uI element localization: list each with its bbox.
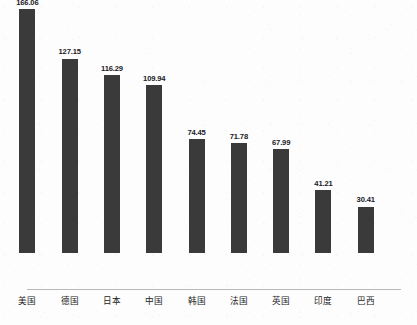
bar-rect[interactable] [358, 207, 374, 254]
bar-group-3[interactable]: 109.94 [133, 0, 175, 253]
category-label-2: 日本 [91, 297, 133, 306]
bar-value-label: 166.06 [16, 0, 38, 7]
bar-rect[interactable] [189, 139, 205, 253]
bar-rect[interactable] [273, 149, 289, 253]
bar-group-6[interactable]: 67.99 [260, 0, 302, 253]
category-label-3: 中国 [133, 297, 175, 306]
bar-value-label: 74.45 [187, 129, 205, 137]
bar-group-1[interactable]: 127.15 [49, 0, 91, 253]
category-label-7: 印度 [302, 297, 344, 306]
bar-value-label: 127.15 [58, 48, 80, 56]
category-label-5: 法国 [218, 297, 260, 306]
bar-value-label: 116.29 [101, 65, 123, 73]
category-label-1: 德国 [49, 297, 91, 306]
bar-group-7[interactable]: 41.21 [302, 0, 344, 253]
bar-value-label: 109.94 [143, 75, 165, 83]
bar-rect[interactable] [104, 75, 120, 253]
plot-area: 166.06 127.15 116.29 109.94 74.45 71.78 … [0, 0, 417, 289]
category-axis: 美国 德国 日本 中国 韩国 法国 英国 印度 巴西 [0, 293, 417, 325]
category-label-4: 韩国 [175, 297, 217, 306]
category-label-0: 美国 [6, 297, 48, 306]
bar-value-label: 67.99 [272, 139, 290, 147]
bar-rect[interactable] [19, 9, 35, 253]
bar-group-4[interactable]: 74.45 [175, 0, 217, 253]
bar-rect[interactable] [146, 85, 162, 253]
bar-group-5[interactable]: 71.78 [218, 0, 260, 253]
x-axis-line [27, 289, 401, 290]
bar-group-2[interactable]: 116.29 [91, 0, 133, 253]
bar-group-8[interactable]: 30.41 [345, 0, 387, 253]
bar-rect[interactable] [62, 59, 78, 253]
bar-rect[interactable] [315, 190, 331, 253]
bar-value-label: 41.21 [314, 180, 332, 188]
category-label-8: 巴西 [345, 297, 387, 306]
bar-value-label: 30.41 [357, 196, 375, 204]
bar-chart: 166.06 127.15 116.29 109.94 74.45 71.78 … [0, 0, 417, 325]
bar-rect[interactable] [231, 143, 247, 253]
bar-value-label: 71.78 [230, 133, 248, 141]
bar-group-0[interactable]: 166.06 [6, 0, 48, 253]
category-label-6: 英国 [260, 297, 302, 306]
